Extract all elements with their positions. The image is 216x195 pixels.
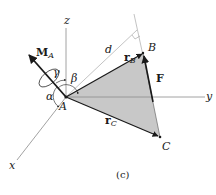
force-label: F [156,73,164,84]
point-c-label: C [162,141,170,152]
alpha-label: α [46,91,53,102]
point-b-label: B [148,42,156,53]
moment-subscript: A [48,51,54,60]
r-c-subscript: C [111,119,117,128]
point-c [159,136,162,139]
x-axis-label: x [9,160,15,171]
distance-label: d [105,44,112,55]
z-axis-label: z [64,15,70,26]
y-axis-label: y [206,91,212,102]
r-b-label: rB [124,52,136,65]
r-b-subscript: B [130,56,136,65]
moment-label: MA [36,47,54,60]
beta-label: β [71,73,77,84]
gamma-label: γ [53,67,60,78]
moment-diagram: z y x A B C F d MA rB rC α β γ (c) [0,0,216,195]
diagram-canvas [0,0,216,195]
gamma-arc [56,80,66,83]
figure-caption: (c) [116,170,129,180]
point-a-label: A [59,101,67,112]
point-a [64,95,67,98]
r-c-label: rC [105,115,117,128]
moment-symbol: M [36,46,48,59]
point-b [142,52,144,54]
